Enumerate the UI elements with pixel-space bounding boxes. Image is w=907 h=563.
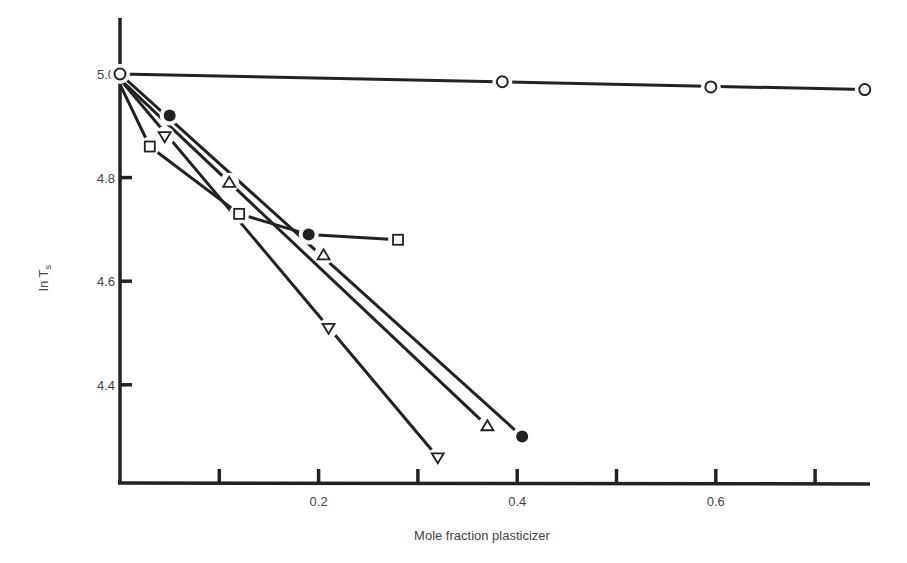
open-square-line [120,84,398,239]
open-circle-marker [701,77,721,97]
filled-circle-marker [299,225,319,245]
x-axis-line [118,483,870,484]
up-triangle-marker [314,245,334,265]
y-axis-title: ln Ts [36,265,53,291]
open-square-marker [229,204,249,224]
filled-circle-marker [160,105,180,125]
x-tick-label: 0.2 [310,494,328,509]
filled-circle-marker [512,427,532,447]
x-axis-title: Mole fraction plasticizer [414,528,550,543]
series-markers [110,64,875,467]
up-triangle-marker [477,416,497,436]
down-triangle-marker [428,447,448,467]
open-circle-marker [855,80,875,100]
axis-labels: Mole fraction plasticizer ln Ts [36,265,551,543]
open-circle-marker [110,64,130,84]
open-square-marker [388,230,408,250]
x-tick-label: 0.4 [508,494,526,509]
up-triangle-marker [219,173,239,193]
up-triangle-line [120,79,487,426]
y-tick-label: 4.4 [97,378,115,393]
y-tick-label: 4.8 [97,171,115,186]
open-circle-marker [492,72,512,92]
down-triangle-marker [319,318,339,338]
chart-canvas: 0.20.40.65.04.84.64.4 Mole fraction plas… [0,0,907,563]
y-tick-label: 4.6 [97,274,115,289]
series-lines [120,74,865,457]
open-square-marker [140,137,160,157]
x-tick-label: 0.6 [707,494,725,509]
